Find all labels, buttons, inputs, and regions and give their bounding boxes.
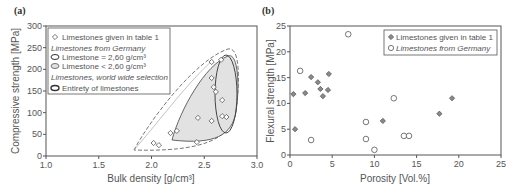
x-tick-label: 10 bbox=[369, 159, 379, 169]
x-tick-label: 1.5 bbox=[92, 160, 105, 170]
legend-heading: Limestones from Germany bbox=[51, 44, 146, 53]
data-point-circle bbox=[297, 68, 303, 74]
panel-b-legend: Limestones given in table 1Limestones fr… bbox=[384, 30, 497, 55]
panel-b-x-axis-label: Porosity [Vol.%] bbox=[360, 173, 430, 184]
data-point-circle bbox=[406, 133, 412, 139]
y-tick-label: 50 bbox=[32, 129, 42, 139]
y-tick-label: 15 bbox=[276, 73, 286, 83]
y-tick-label: 0 bbox=[281, 150, 286, 160]
data-point-diamond bbox=[291, 92, 296, 97]
y-tick-label: 5 bbox=[281, 124, 286, 134]
data-point-circle bbox=[372, 147, 378, 153]
data-point-diamond bbox=[326, 71, 331, 76]
x-tick-label: 15 bbox=[412, 159, 422, 169]
y-tick-label: 0 bbox=[37, 151, 42, 161]
y-tick-label: 300 bbox=[27, 21, 42, 31]
data-point-circle bbox=[391, 95, 397, 101]
data-point-diamond bbox=[318, 86, 323, 91]
data-point-circle bbox=[363, 119, 369, 125]
legend-label: Entirety of limestones bbox=[62, 84, 138, 93]
data-point-circle bbox=[308, 137, 314, 143]
legend-label: Limestone < 2,60 g/cm³ bbox=[62, 62, 146, 71]
legend-ellipse-icon bbox=[51, 64, 59, 69]
panel-b-label: (b) bbox=[262, 5, 274, 17]
y-tick-label: 200 bbox=[27, 64, 42, 74]
x-tick-label: 25 bbox=[496, 159, 506, 169]
panel-a-y-axis-label: Compressive strength [MPa] bbox=[10, 28, 21, 154]
data-point-diamond bbox=[151, 140, 156, 145]
data-point-diamond bbox=[380, 118, 385, 123]
panel-a: (a) 1.01.52.02.53.0050100150200250300 Bu… bbox=[10, 5, 263, 184]
data-point-diamond bbox=[303, 90, 308, 95]
x-tick-label: 5 bbox=[330, 159, 335, 169]
y-tick-label: 150 bbox=[27, 86, 42, 96]
data-point-diamond bbox=[320, 94, 325, 99]
figure: (a) 1.01.52.02.53.0050100150200250300 Bu… bbox=[0, 0, 516, 194]
x-tick-label: 2.5 bbox=[198, 160, 211, 170]
data-point-diamond bbox=[449, 96, 454, 101]
legend-label: Limestone = 2,60 g/cm³ bbox=[62, 53, 146, 62]
panel-b: (b) 05101520250510152025 Porosity [Vol.%… bbox=[262, 5, 506, 184]
legend-label: Limestones given in table 1 bbox=[62, 33, 160, 42]
data-point-diamond bbox=[156, 143, 161, 148]
panel-b-y-axis-label: Flexural strength [MPa] bbox=[265, 39, 276, 143]
y-tick-label: 250 bbox=[27, 43, 42, 53]
data-point-diamond bbox=[168, 130, 173, 135]
data-point-diamond bbox=[209, 59, 214, 64]
y-tick-label: 100 bbox=[27, 108, 42, 118]
region-limestone-lt-2-60 bbox=[172, 56, 238, 142]
panel-a-x-axis-label: Bulk density [g/cm³] bbox=[107, 173, 194, 184]
data-point-diamond bbox=[315, 80, 320, 85]
data-point-diamond bbox=[325, 87, 330, 92]
x-tick-label: 2.0 bbox=[145, 160, 158, 170]
panel-a-legend: Limestones given in table 1Limestones fr… bbox=[48, 28, 170, 94]
x-tick-label: 20 bbox=[454, 159, 464, 169]
legend-heading: Limestones, world wide selection bbox=[51, 73, 168, 82]
legend-label: Limestones given in table 1 bbox=[396, 33, 494, 42]
x-tick-label: 1.0 bbox=[40, 160, 53, 170]
data-point-diamond bbox=[437, 111, 442, 116]
legend-circle-icon bbox=[388, 45, 393, 50]
legend-label: Limestones from Germany bbox=[396, 44, 491, 53]
x-tick-label: 3.0 bbox=[251, 160, 264, 170]
x-tick-label: 0 bbox=[287, 159, 292, 169]
data-point-diamond bbox=[309, 74, 314, 79]
data-point-circle bbox=[345, 31, 351, 37]
y-tick-label: 20 bbox=[276, 47, 286, 57]
y-tick-label: 25 bbox=[276, 21, 286, 31]
data-point-circle bbox=[363, 136, 369, 142]
y-tick-label: 10 bbox=[276, 98, 286, 108]
panel-a-label: (a) bbox=[14, 5, 26, 17]
data-point-diamond bbox=[292, 127, 297, 132]
